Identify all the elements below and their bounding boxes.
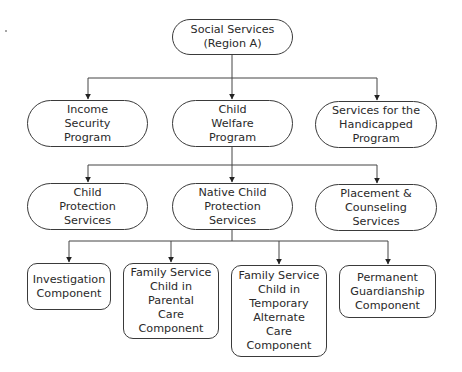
org-chart: Social Services (Region A) Income Securi… — [0, 0, 462, 372]
node-family-parental-care: Family Service Child in Parental Care Co… — [123, 263, 219, 339]
node-investigation: Investigation Component — [27, 263, 111, 310]
node-family-temporary-care: Family Service Child in Temporary Altern… — [231, 265, 327, 357]
node-child-protection: Child Protection Services — [27, 183, 148, 230]
node-income-security: Income Security Program — [27, 100, 148, 147]
node-native-child-protection: Native Child Protection Services — [172, 183, 293, 230]
node-social-services: Social Services (Region A) — [172, 19, 293, 55]
node-placement-counseling: Placement & Counseling Services — [315, 184, 437, 231]
node-handicapped: Services for the Handicapped Program — [315, 101, 437, 148]
node-permanent-guardianship: Permanent Guardianship Component — [339, 265, 436, 318]
node-child-welfare: Child Welfare Program — [172, 100, 293, 147]
